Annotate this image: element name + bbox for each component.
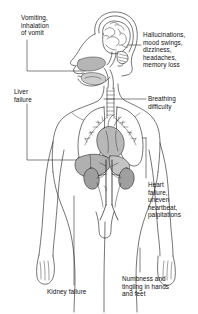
brain xyxy=(103,21,131,67)
label-heart-failure: Heart failure, uneven heartbeat, palpita… xyxy=(148,181,181,219)
label-kidney-failure: Kidney failure xyxy=(47,288,86,296)
leader-vomiting xyxy=(27,40,85,71)
label-breathing-difficulty: Breathing difficulty xyxy=(148,95,176,110)
urinary-system xyxy=(84,160,134,220)
anatomy-diagram: Vomiting, inhalation of vomit Hallucinat… xyxy=(0,0,198,314)
label-vomiting: Vomiting, inhalation of vomit xyxy=(21,14,49,37)
leader-liver xyxy=(27,104,82,160)
head-profile xyxy=(71,12,138,86)
label-hallucinations: Hallucinations, mood swings, dizziness, … xyxy=(143,31,185,69)
label-numbness: Numbness and tingling in hands and feet xyxy=(122,275,169,298)
label-liver-failure: Liver failure xyxy=(14,88,32,103)
